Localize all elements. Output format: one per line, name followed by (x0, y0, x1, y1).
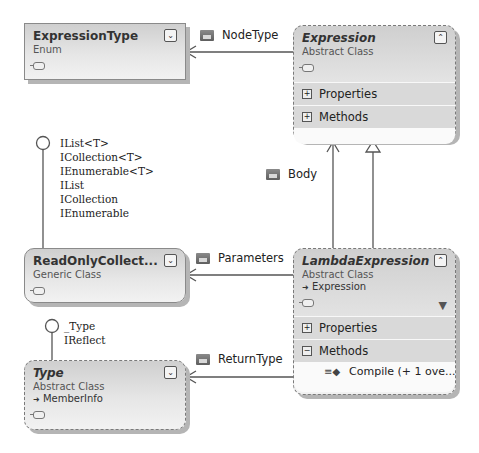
shape-kind: Abstract Class (302, 269, 449, 280)
collapse-chevron-icon[interactable]: ⌃ (434, 31, 447, 44)
base-class: ➜ MemberInfo (33, 393, 179, 404)
base-class: ➜ Expression (302, 281, 449, 292)
interface-item: IList<T> (60, 136, 154, 150)
inherits-arrow-icon: ➜ (302, 283, 309, 292)
class-icon (302, 64, 314, 72)
class-icon (33, 287, 45, 295)
association-label-parameters[interactable]: Parameters (196, 251, 284, 265)
shape-title: LambdaExpression (302, 254, 449, 268)
property-icon (196, 253, 210, 264)
shape-title: ReadOnlyCollect... (33, 254, 179, 268)
class-shape-readonlycollection[interactable]: ReadOnlyCollect... Generic Class ⌄ (24, 248, 186, 303)
filter-icon[interactable]: ▼ (439, 299, 447, 312)
property-icon (200, 30, 214, 41)
shape-title: ExpressionType (33, 29, 179, 43)
shape-title: Expression (302, 31, 449, 45)
association-label-returntype[interactable]: ReturnType (196, 352, 283, 366)
shape-kind: Generic Class (33, 269, 179, 280)
section-label: Methods (319, 344, 368, 358)
interface-item: _Type (64, 319, 106, 333)
shape-title: Type (33, 366, 179, 380)
shape-kind: Abstract Class (302, 46, 449, 57)
section-label: Methods (319, 110, 368, 124)
shape-kind: Abstract Class (33, 381, 179, 392)
association-text: ReturnType (218, 352, 283, 366)
expand-plus-icon[interactable]: + (302, 323, 312, 333)
class-shape-lambdaexpression[interactable]: LambdaExpression Abstract Class ➜ Expres… (293, 248, 456, 395)
expand-plus-icon[interactable]: + (302, 89, 312, 99)
class-icon (302, 299, 314, 307)
interface-item: IEnumerable (60, 206, 154, 220)
expand-plus-icon[interactable]: + (302, 112, 312, 122)
class-shape-type[interactable]: Type Abstract Class ➜ MemberInfo ⌄ (24, 360, 186, 430)
association-text: Body (288, 167, 317, 181)
property-icon (266, 169, 280, 180)
association-label-nodetype[interactable]: NodeType (200, 28, 278, 42)
expand-chevron-icon[interactable]: ⌄ (164, 366, 177, 379)
enum-icon (33, 62, 45, 70)
interface-list-type: _Type IReflect (64, 319, 106, 347)
interface-item: ICollection<T> (60, 150, 154, 164)
expand-chevron-icon[interactable]: ⌄ (164, 254, 177, 267)
class-shape-expressiontype[interactable]: ExpressionType Enum ⌄ (24, 23, 186, 80)
section-properties[interactable]: + Properties (294, 82, 455, 105)
section-label: Properties (319, 87, 377, 101)
expand-chevron-icon[interactable]: ⌄ (164, 29, 177, 42)
section-label: Properties (319, 321, 377, 335)
interface-list-readonlycollection: IList<T> ICollection<T> IEnumerable<T> I… (60, 136, 154, 220)
section-properties[interactable]: + Properties (294, 316, 455, 339)
shape-kind: Enum (33, 44, 179, 55)
inherits-arrow-icon: ➜ (33, 395, 40, 404)
collapse-minus-icon[interactable]: − (302, 346, 312, 356)
section-methods[interactable]: − Methods (294, 339, 455, 362)
shape-footer (294, 128, 455, 144)
property-icon (196, 354, 210, 365)
interface-item: IList (60, 178, 154, 192)
shape-footer (294, 383, 455, 392)
class-icon (33, 411, 45, 419)
method-icon: ≡◆ (324, 366, 340, 377)
section-methods[interactable]: + Methods (294, 105, 455, 128)
collapse-chevron-icon[interactable]: ⌃ (434, 254, 447, 267)
interface-item: IEnumerable<T> (60, 164, 154, 178)
class-shape-expression[interactable]: Expression Abstract Class ⌃ + Properties… (293, 25, 456, 141)
association-text: NodeType (222, 28, 278, 42)
method-compile[interactable]: ≡◆ Compile (+ 1 ove... (294, 362, 455, 383)
association-label-body[interactable]: Body (266, 167, 317, 181)
interface-item: IReflect (64, 333, 106, 347)
association-text: Parameters (218, 251, 284, 265)
interface-item: ICollection (60, 192, 154, 206)
